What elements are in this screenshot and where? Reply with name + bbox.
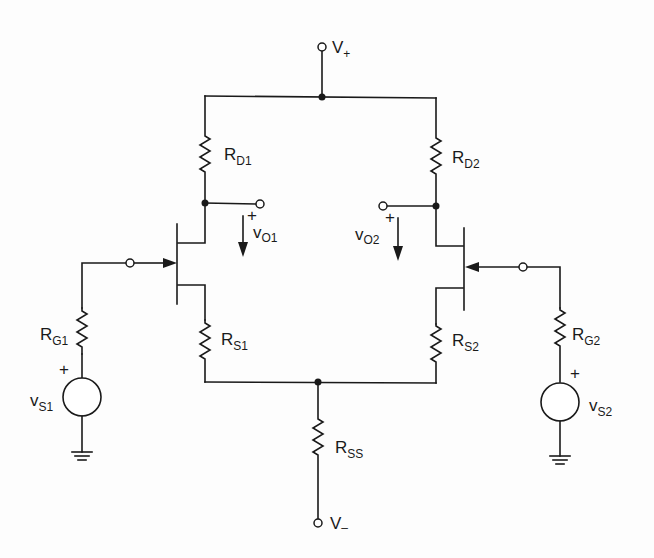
svg-text:+: + (385, 208, 395, 227)
rd1-label: RD1 (224, 145, 252, 168)
svg-text:+: + (59, 360, 69, 379)
rg1-label: RG1 (40, 325, 69, 348)
resistor-rg1: RG1 (40, 308, 87, 354)
ground-icon (550, 456, 570, 464)
rg2-label: RG2 (572, 325, 601, 348)
output-vo1: + vO1 (202, 200, 278, 258)
resistor-rs2: RS2 (431, 324, 479, 383)
output-vo2: + vO2 (355, 202, 440, 261)
top-node (319, 94, 326, 101)
rd2-label: RD2 (452, 148, 480, 171)
voltage-source-vs2: + vS2 (541, 364, 613, 456)
circuit-diagram: V+ RD1 RD2 + vO1 + vO2 (0, 0, 654, 558)
rs2-label: RS2 (452, 331, 479, 354)
voltage-source-vs1: + vS1 (30, 354, 101, 452)
vo2-label: vO2 (355, 225, 380, 247)
vminus-terminal: V– (314, 514, 348, 535)
rs1-label: RS1 (221, 330, 248, 353)
vs1-label: vS1 (30, 391, 54, 414)
resistor-rd2: RD2 (431, 98, 480, 206)
vo1-label: vO1 (253, 223, 278, 245)
gate-input-1 (82, 259, 134, 308)
vplus-terminal: V+ (318, 38, 350, 97)
jfet-1 (134, 203, 205, 320)
resistor-rd1: RD1 (200, 96, 252, 203)
svg-text:+: + (570, 364, 580, 383)
vs2-label: vS2 (589, 396, 613, 419)
rss-label: RSS (335, 438, 363, 461)
gate-input-2 (519, 263, 560, 308)
ground-icon (72, 452, 92, 460)
resistor-rss: RSS (313, 382, 363, 519)
resistor-rs1: RS1 (200, 320, 248, 382)
vplus-label: V+ (332, 38, 350, 61)
vminus-label: V– (330, 514, 348, 535)
jfet-2 (436, 206, 519, 324)
